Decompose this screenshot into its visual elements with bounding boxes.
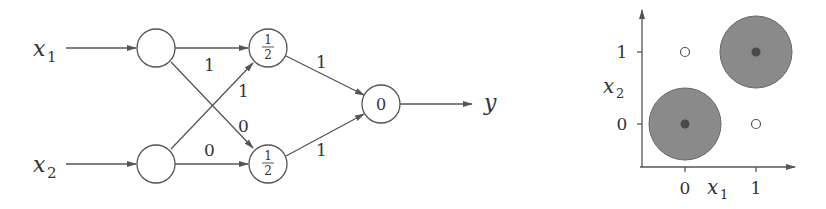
svg-text:x: x <box>33 36 46 61</box>
svg-text:2: 2 <box>616 86 624 101</box>
x-tick-label-0: 0 <box>680 178 691 198</box>
svg-text:1: 1 <box>264 149 272 163</box>
input-label-x1: x 1 <box>33 36 57 66</box>
point-open-01 <box>681 48 690 57</box>
hidden-node-1: 1 2 <box>249 29 287 67</box>
svg-text:2: 2 <box>264 164 272 178</box>
y-tick-label-1: 1 <box>617 42 628 62</box>
svg-text:2: 2 <box>264 48 272 62</box>
weight-x2-h1: 1 <box>238 81 249 101</box>
weight-x1-h1: 1 <box>204 55 215 75</box>
y-tick-label-0: 0 <box>617 114 628 134</box>
weight-x1-h2: 0 <box>238 116 249 136</box>
point-open-10 <box>752 120 761 129</box>
point-filled-00 <box>681 120 690 129</box>
svg-text:1: 1 <box>720 187 728 202</box>
hidden-node-2: 1 2 <box>249 145 287 183</box>
input-node-1 <box>137 29 175 67</box>
x-tick-label-1: 1 <box>751 178 762 198</box>
svg-text:1: 1 <box>264 33 272 47</box>
edge-x2-h1 <box>171 63 253 149</box>
input-node-2 <box>137 145 175 183</box>
weight-h2-out: 1 <box>316 140 327 160</box>
svg-text:x: x <box>33 152 46 177</box>
weight-x2-h2: 0 <box>204 140 215 160</box>
svg-text:1: 1 <box>47 48 57 66</box>
svg-text:x: x <box>603 74 614 98</box>
weight-h1-out: 1 <box>316 52 327 72</box>
svg-text:0: 0 <box>376 95 386 114</box>
xor-plot: 0 1 0 1 x 1 x 2 <box>603 10 795 202</box>
figure: x 1 x 2 1 1 0 0 1 1 1 <box>0 0 826 209</box>
svg-text:x: x <box>707 175 718 199</box>
point-filled-11 <box>752 48 761 57</box>
x-axis-label: x 1 <box>707 175 728 202</box>
network-diagram: x 1 x 2 1 1 0 0 1 1 1 <box>33 29 497 183</box>
output-label-y: y <box>483 90 497 115</box>
y-axis-label: x 2 <box>603 74 624 101</box>
input-label-x2: x 2 <box>33 152 57 182</box>
svg-text:2: 2 <box>47 164 57 182</box>
output-node: 0 <box>362 85 400 123</box>
